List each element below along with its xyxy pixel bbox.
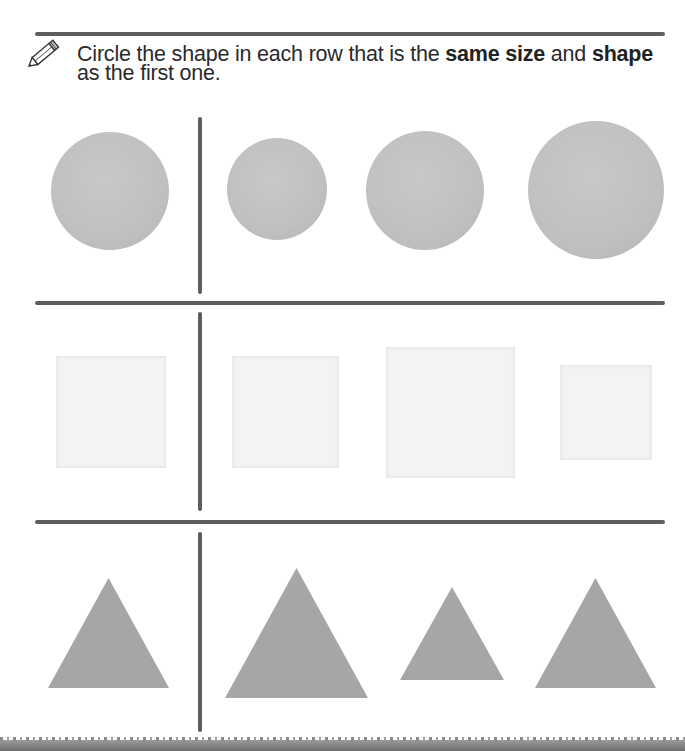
option-triangle-same[interactable]: [535, 578, 656, 688]
option-triangle-small[interactable]: [400, 587, 504, 680]
pencil-icon: [24, 38, 62, 72]
option-triangle-large[interactable]: [225, 568, 368, 698]
option-circle-same[interactable]: [366, 131, 484, 250]
reference-circle: [51, 132, 169, 250]
instruction-part: as the first one.: [77, 61, 221, 85]
option-square-large[interactable]: [386, 347, 515, 478]
option-square-small[interactable]: [560, 365, 652, 460]
row-divider-vertical: [198, 532, 202, 732]
instruction-text: Circle the shape in each row that is the…: [77, 45, 677, 83]
instruction-part: and: [545, 42, 592, 66]
row-divider-vertical: [198, 312, 202, 511]
row-rule-1: [35, 301, 665, 305]
reference-triangle: [48, 578, 169, 688]
top-rule: [35, 32, 665, 36]
bottom-border-band: [0, 740, 685, 751]
instruction-emphasis-shape: shape: [592, 42, 653, 66]
reference-square: [56, 356, 166, 468]
option-circle-small[interactable]: [227, 138, 327, 240]
instruction-emphasis-same-size: same size: [445, 42, 545, 66]
option-square-same[interactable]: [232, 356, 339, 468]
row-divider-vertical: [198, 117, 202, 294]
row-rule-2: [35, 520, 665, 524]
option-circle-large[interactable]: [528, 121, 664, 259]
